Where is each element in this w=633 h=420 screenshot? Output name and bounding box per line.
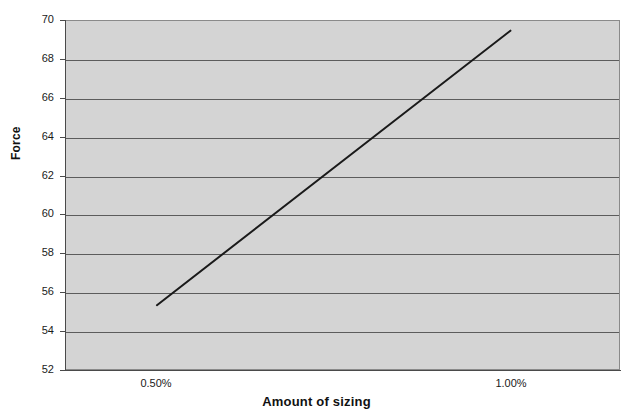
x-tick-label: 1.00% (466, 377, 556, 389)
y-tick-label: 60 (14, 208, 54, 219)
x-axis-title: Amount of sizing (0, 394, 633, 409)
y-tick-mark (60, 331, 65, 332)
plot-area (65, 20, 620, 370)
y-axis-title: Force (9, 126, 23, 160)
y-axis-line (65, 20, 66, 371)
series-line-layer (66, 21, 619, 369)
y-tick-mark (60, 20, 65, 21)
chart-figure: 52545658606264666870 0.50%1.00% Force Am… (0, 0, 633, 420)
y-tick-label: 66 (14, 92, 54, 103)
y-tick-label: 56 (14, 286, 54, 297)
y-tick-mark (60, 98, 65, 99)
series-line-force (157, 31, 510, 306)
y-tick-label: 70 (14, 14, 54, 25)
y-tick-mark (60, 292, 65, 293)
y-tick-mark (60, 253, 65, 254)
y-tick-label: 52 (14, 364, 54, 375)
y-tick-label: 54 (14, 325, 54, 336)
x-tick-label: 0.50% (111, 377, 201, 389)
x-axis-line (65, 370, 621, 371)
y-tick-mark (60, 59, 65, 60)
y-tick-mark (60, 214, 65, 215)
y-tick-label: 62 (14, 170, 54, 181)
y-tick-mark (60, 176, 65, 177)
y-tick-mark (60, 137, 65, 138)
y-tick-mark (60, 370, 65, 371)
y-tick-label: 58 (14, 247, 54, 258)
y-tick-label: 68 (14, 53, 54, 64)
